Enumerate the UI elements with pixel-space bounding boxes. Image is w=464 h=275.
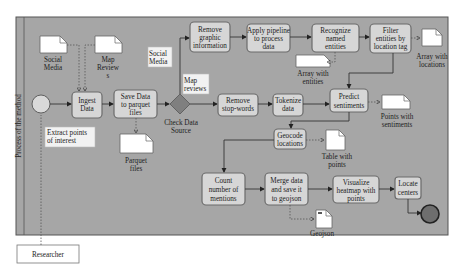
task-recognize-entities[interactable]: Recognize named entities [312, 24, 359, 52]
svg-text:Recognize: Recognize [320, 27, 350, 35]
svg-text:Source: Source [171, 127, 191, 135]
svg-text:reviews: reviews [184, 85, 207, 93]
svg-text:Points with: Points with [381, 113, 414, 121]
svg-text:Media: Media [44, 64, 63, 72]
svg-text:Tokenize: Tokenize [275, 97, 301, 105]
svg-text:location tag: location tag [374, 43, 408, 51]
svg-text:to process: to process [254, 35, 283, 43]
task-predict-sentiments[interactable]: Predict sentiments [330, 89, 368, 112]
svg-text:sentiments: sentiments [334, 102, 365, 110]
annotation-extract-line2: of interest [47, 137, 76, 145]
svg-text:Map: Map [101, 56, 115, 64]
svg-text:heatmap with: heatmap with [337, 187, 376, 195]
svg-text:number of: number of [209, 186, 239, 194]
svg-text:to geojson: to geojson [272, 195, 302, 203]
bpmn-diagram: Process of the method Researcher Extract… [0, 0, 464, 275]
svg-text:Ingest: Ingest [78, 97, 96, 105]
svg-text:Apply pipeline: Apply pipeline [247, 27, 290, 35]
svg-text:Geojson: Geojson [310, 230, 334, 238]
svg-text:centers: centers [398, 189, 419, 197]
task-save-parquet[interactable]: Save Data to parquet files [114, 90, 157, 118]
svg-text:Locate: Locate [398, 180, 418, 188]
svg-text:files: files [129, 109, 142, 117]
task-remove-graphic[interactable]: Remove graphic information [190, 22, 230, 52]
svg-text:Geocode: Geocode [277, 132, 303, 140]
task-merge-geojson[interactable]: Merge data and save it to geojson [265, 173, 308, 205]
svg-text:named: named [326, 35, 346, 43]
task-count-mentions[interactable]: Count number of mentions [202, 173, 245, 205]
svg-text:Merge data: Merge data [270, 177, 303, 185]
svg-text:stop-words: stop-words [222, 105, 254, 113]
svg-text:Map: Map [184, 77, 198, 85]
svg-text:Parquet: Parquet [125, 157, 147, 165]
svg-text:points: points [347, 195, 365, 203]
task-ingest-data[interactable]: Ingest Data [72, 92, 102, 118]
svg-text:to parquet: to parquet [121, 101, 150, 109]
task-filter-entities[interactable]: Filter entities by location tag [370, 24, 411, 53]
svg-text:Data: Data [80, 105, 94, 113]
end-event[interactable] [421, 205, 439, 223]
svg-text:Array with: Array with [297, 70, 329, 78]
task-apply-pipeline[interactable]: Apply pipeline to process data [247, 24, 290, 52]
svg-text:graphic: graphic [199, 34, 221, 42]
svg-text:Social: Social [149, 50, 167, 58]
task-geocode-locations[interactable]: Geocode locations [274, 129, 306, 149]
svg-text:points: points [328, 161, 346, 169]
svg-text:Visualize: Visualize [343, 179, 370, 187]
svg-text:Save Data: Save Data [121, 93, 151, 101]
svg-text:Table with: Table with [322, 153, 353, 161]
svg-text:Remove: Remove [226, 97, 250, 105]
start-event[interactable] [32, 95, 50, 113]
svg-text:and save it: and save it [271, 186, 302, 194]
svg-text:entities: entities [303, 78, 324, 86]
annotation-extract-line1: Extract points [47, 129, 87, 137]
svg-text:Media: Media [149, 58, 168, 66]
task-visualize-heatmap[interactable]: Visualize heatmap with points [333, 176, 379, 203]
svg-text:information: information [193, 42, 227, 50]
svg-text:files: files [130, 165, 143, 173]
svg-text:Predict: Predict [339, 93, 359, 101]
task-remove-stopwords[interactable]: Remove stop-words [218, 94, 258, 116]
svg-text:data: data [263, 43, 276, 51]
svg-text:sentiments: sentiments [382, 121, 413, 129]
svg-text:s: s [107, 72, 110, 80]
researcher-label: Researcher [32, 251, 65, 259]
task-locate-centers[interactable]: Locate centers [395, 177, 421, 199]
svg-text:entities: entities [325, 43, 346, 51]
svg-text:Array with: Array with [416, 53, 448, 61]
svg-text:Remove: Remove [198, 26, 222, 34]
svg-text:entities by: entities by [376, 35, 406, 43]
svg-text:Check Data: Check Data [164, 119, 199, 127]
task-tokenize[interactable]: Tokenize data [273, 94, 303, 116]
svg-text:mentions: mentions [210, 195, 237, 203]
svg-text:locations: locations [277, 140, 303, 148]
svg-text:Filter: Filter [383, 27, 399, 35]
svg-text:Count: Count [215, 177, 233, 185]
svg-text:locations: locations [419, 61, 445, 69]
svg-text:data: data [282, 105, 295, 113]
lane-label: Process of the method [15, 94, 23, 158]
svg-text:Review: Review [97, 64, 120, 72]
svg-text:Social: Social [44, 56, 62, 64]
